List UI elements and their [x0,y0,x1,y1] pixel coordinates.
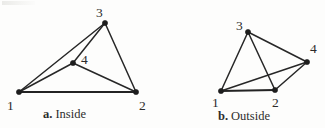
graph-vertex-3-label: 3 [96,6,103,20]
caption-a-letter: a. [43,107,52,121]
graph-vertex-3-label: 3 [236,19,243,33]
graph-vertex-4-dot [304,59,309,64]
caption-a-word: Inside [55,107,86,121]
panel-a-edges [19,23,136,92]
caption-b-letter: b. [218,109,228,123]
graph-edge-3-4 [248,32,307,62]
edges-layer [19,23,307,92]
graph-vertex-2-label: 2 [139,99,146,113]
graph-vertex-1-dot [218,88,223,93]
figure-root: 12341234 a.Insideb.Outside [0,0,325,128]
caption-b: b.Outside [218,110,270,123]
graph-vertex-1-label: 1 [212,96,219,110]
graph-vertex-2-dot [133,89,138,94]
graph-vertex-3-dot [245,29,250,34]
caption-b-word: Outside [231,109,270,123]
graph-vertex-1-dot [16,89,21,94]
panel-b-vertices [218,29,309,93]
panel-b-edges [221,32,307,91]
graph-edge-2-3 [105,23,136,92]
graph-vertex-2-dot [272,87,277,92]
graph-edge-3-4 [73,23,105,63]
graph-vertex-4-label: 4 [310,42,317,56]
graph-edge-1-3 [221,32,248,91]
graph-vertex-1-label: 1 [7,99,14,113]
graph-edge-2-4 [73,63,136,92]
graph-vertex-4-label: 4 [81,53,88,67]
graph-edge-1-2 [221,90,275,91]
graph-edge-1-4 [19,63,73,92]
graph-edge-1-3 [19,23,105,92]
graph-vertex-2-label: 2 [272,96,279,110]
graph-edge-2-4 [275,62,307,90]
graph-vertex-3-dot [102,20,107,25]
caption-a: a.Inside [43,108,86,121]
vertices-layer [16,20,309,94]
graph-vertex-4-dot [70,60,75,65]
